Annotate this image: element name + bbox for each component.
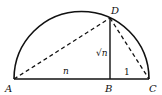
segment-label-ab: n xyxy=(63,66,69,76)
segment-label-bc: 1 xyxy=(124,67,130,77)
point-label-a: A xyxy=(4,83,12,94)
segment-label-bd: √n xyxy=(96,48,108,58)
point-label-b: B xyxy=(104,83,112,94)
geometry-diagram: A B C D n √n 1 xyxy=(0,0,162,95)
point-label-c: C xyxy=(149,83,157,94)
point-label-d: D xyxy=(110,5,119,16)
